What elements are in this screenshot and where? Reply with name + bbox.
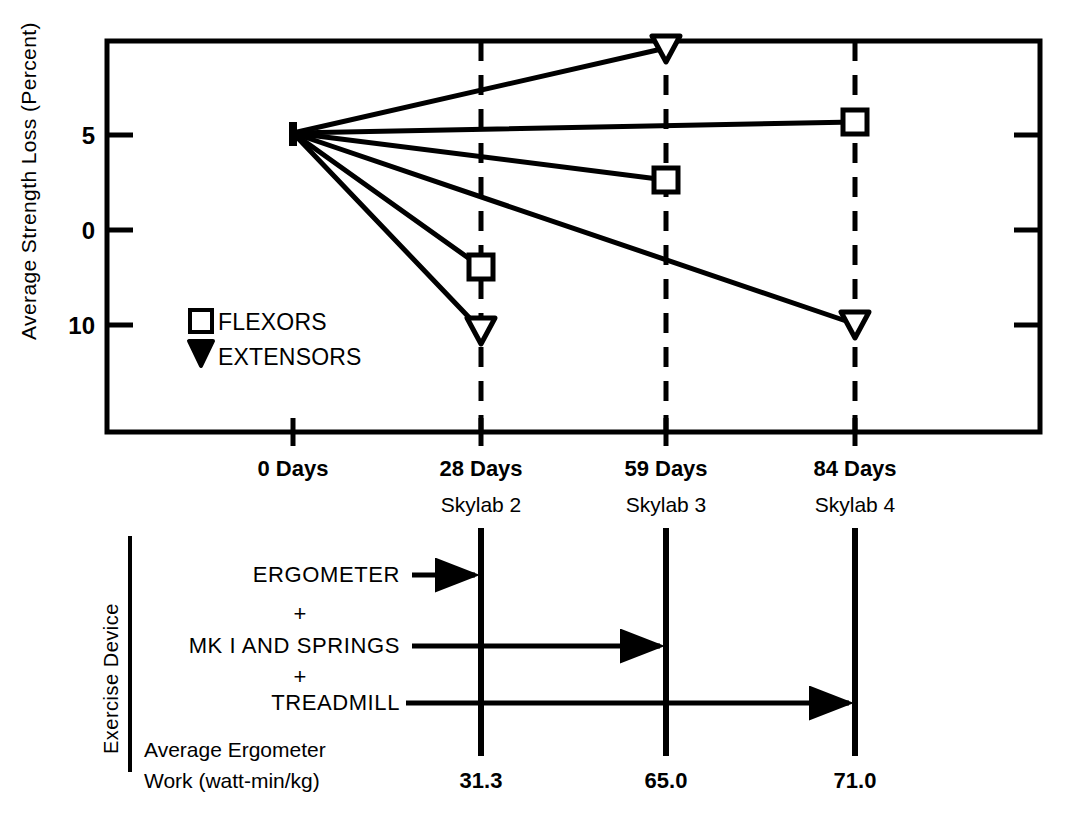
marker-extensors-59-days <box>652 36 680 62</box>
series-line-skylab4-extensors <box>293 133 855 324</box>
y-axis-ticks: 5 0 10 <box>68 122 1040 339</box>
marker-flexors-84-days <box>843 110 867 134</box>
exercise-device-label: Exercise Device <box>100 603 122 754</box>
y-axis-label-text: Average Strength Loss (Percent) <box>17 22 40 340</box>
y-tick-label-5: 5 <box>82 122 95 149</box>
mission-label-skylab-4: Skylab 4 <box>815 493 896 516</box>
x-axis-ticks: 0 Days 28 Days 59 Days 84 Days <box>258 418 897 481</box>
device-row-treadmill: TREADMILL <box>271 690 849 715</box>
square-marker-icon <box>190 310 212 332</box>
triangle-down-marker-icon <box>189 341 213 366</box>
legend-entry-flexors: FLEXORS <box>190 309 327 335</box>
device-label-plus-1: + <box>294 601 307 626</box>
series-line-skylab4-flexors <box>293 122 855 133</box>
device-label-mk1-springs: MK I AND SPRINGS <box>189 633 400 658</box>
chart-legend: FLEXORS EXTENSORS <box>189 309 362 370</box>
marker-flexors-28-days <box>469 255 493 279</box>
x-tick-label-84-days: 84 Days <box>813 456 896 481</box>
legend-label-extensors: EXTENSORS <box>218 344 362 370</box>
device-row-ergometer: ERGOMETER <box>253 562 475 587</box>
ergometer-work-value-skylab-3: 65.0 <box>645 768 688 793</box>
ergometer-work-value-skylab-4: 71.0 <box>834 768 877 793</box>
figure-svg: Average Strength Loss (Percent) 5 0 10 0… <box>0 0 1073 829</box>
plot-frame <box>107 41 1040 432</box>
device-label-plus-2: + <box>294 664 307 689</box>
legend-label-flexors: FLEXORS <box>218 309 327 335</box>
y-tick-label-10: 10 <box>68 312 95 339</box>
ergometer-work-label-line1: Average Ergometer <box>144 738 326 761</box>
mission-gridlines <box>481 41 855 432</box>
exercise-device-bracket: Exercise Device <box>100 536 130 772</box>
x-tick-label-59-days: 59 Days <box>624 456 707 481</box>
legend-entry-extensors: EXTENSORS <box>189 341 362 370</box>
ergometer-work-label-line2: Work (watt-min/kg) <box>144 769 320 792</box>
mission-labels: Skylab 2 Skylab 3 Skylab 4 <box>441 493 896 516</box>
device-row-plus-1: + <box>294 601 307 626</box>
skylab-strength-loss-figure: Average Strength Loss (Percent) 5 0 10 0… <box>0 0 1073 829</box>
mission-label-skylab-3: Skylab 3 <box>626 493 707 516</box>
device-row-plus-2: + <box>294 664 307 689</box>
mission-bars <box>481 528 855 756</box>
mission-label-skylab-2: Skylab 2 <box>441 493 522 516</box>
marker-extensors-84-days <box>841 312 869 338</box>
device-label-treadmill: TREADMILL <box>271 690 400 715</box>
y-tick-label-0: 0 <box>82 217 95 244</box>
data-series-lines <box>293 48 855 330</box>
ergometer-work-value-skylab-2: 31.3 <box>460 768 503 793</box>
device-row-mk1-springs: MK I AND SPRINGS <box>189 633 660 658</box>
x-tick-label-28-days: 28 Days <box>439 456 522 481</box>
marker-flexors-59-days <box>654 168 678 192</box>
ergometer-work-row: Average Ergometer Work (watt-min/kg) 31.… <box>144 738 876 793</box>
y-axis-label: Average Strength Loss (Percent) <box>17 22 40 340</box>
x-tick-label-0-days: 0 Days <box>258 456 329 481</box>
device-label-ergometer: ERGOMETER <box>253 562 400 587</box>
marker-extensors-28-days <box>467 318 495 344</box>
